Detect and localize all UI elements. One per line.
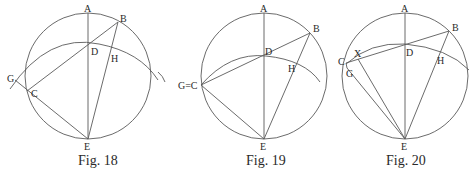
fig20-line-XE [358,59,405,139]
fig18-label-C: C [31,88,38,99]
fig18-line-GE [15,80,88,139]
fig18-label-H: H [111,53,118,64]
fig20-line-GE [347,68,405,139]
fig20-label-A: A [401,3,409,14]
fig19-label-D: D [265,46,272,57]
fig18-label-B: B [120,13,127,24]
figure-20: A B D H C X G E Fig. 20 [338,3,469,168]
fig20-label-B: B [452,22,459,33]
fig19-label-E: E [260,141,266,152]
fig18-label-D: D [91,46,98,57]
fig19-label-GC: G=C [178,80,198,91]
figure-19: A B D H G=C E Fig. 19 [158,3,327,168]
fig20-line-BC [346,31,449,63]
fig18-label-E: E [84,141,90,152]
fig20-label-C: C [338,56,345,67]
figures-canvas: A B D H G C E Fig. 18 A B D H G=C E Fig.… [0,0,474,172]
fig20-caption: Fig. 20 [386,153,426,168]
fig20-label-X: X [354,48,362,59]
fig18-caption: Fig. 18 [78,153,118,168]
fig20-label-D: D [406,47,413,58]
figure-18: A B D H G C E Fig. 18 [7,3,158,168]
fig19-line-BC [201,33,310,85]
fig18-arc [10,42,158,89]
fig18-label-G: G [7,73,14,84]
fig20-label-G: G [346,68,353,79]
fig19-caption: Fig. 19 [246,153,286,168]
fig19-label-H: H [288,63,295,74]
fig19-arc [201,56,320,85]
fig19-arc-fragment [158,72,165,82]
fig18-line-BE [88,22,118,139]
fig20-label-E: E [401,141,407,152]
fig19-label-B: B [313,23,320,34]
fig20-label-H: H [437,55,444,66]
fig18-label-A: A [84,3,92,14]
fig19-label-A: A [260,3,268,14]
